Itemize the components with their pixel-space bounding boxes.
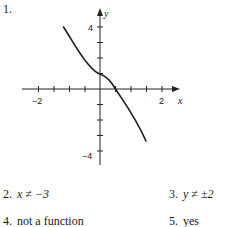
y-axis-arrow-icon [97,8,103,16]
answer-text: x ≠ −3 [17,187,49,201]
answer-4: 4.not a function [3,215,84,227]
x-tick-label-neg2: −2 [32,96,42,106]
answer-number: 2. [3,188,12,201]
answer-text: y ≠ ±2 [183,187,214,201]
answer-number: 5. [169,215,178,227]
y-axis-label: y [103,8,109,19]
answer-number: 3. [169,188,178,201]
answer-text: not a function [17,214,84,227]
y-tick-label-neg4: −4 [82,151,92,161]
answer-number: 4. [3,215,12,227]
answer-3: 3.y ≠ ±2 [169,188,214,201]
y-axis: 4 −4 y [82,8,109,165]
answer-5: 5.yes [169,215,199,227]
function-graph: −2 2 x 4 −4 y [0,0,226,170]
x-axis: −2 2 x [22,86,183,106]
x-tick-label-2: 2 [159,96,164,106]
x-axis-label: x [177,95,183,106]
x-axis-arrow-icon [172,86,180,92]
function-curve [64,27,147,141]
y-tick-label-4: 4 [88,23,93,33]
answer-text: yes [183,214,199,227]
answer-2: 2.x ≠ −3 [3,188,49,201]
